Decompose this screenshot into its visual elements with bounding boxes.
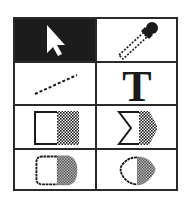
tool-rectangle[interactable]	[15, 106, 97, 150]
tool-palette: T	[13, 17, 178, 191]
tool-text[interactable]: T	[97, 63, 176, 106]
tool-eyedropper[interactable]	[97, 19, 176, 63]
tool-line[interactable]	[15, 63, 97, 106]
line-icon	[15, 63, 95, 104]
rounded-rectangle-icon	[15, 150, 95, 189]
tool-oval[interactable]	[97, 150, 176, 189]
tool-select[interactable]	[15, 19, 97, 63]
arrow-pointer-icon	[15, 19, 95, 61]
eyedropper-icon	[97, 19, 176, 61]
rectangle-icon	[15, 106, 95, 148]
tool-polygon[interactable]	[97, 106, 176, 150]
oval-icon	[97, 150, 176, 189]
text-icon: T	[97, 63, 176, 104]
tool-rounded-rectangle[interactable]	[15, 150, 97, 189]
svg-text:T: T	[122, 63, 151, 104]
polygon-icon	[97, 106, 176, 148]
